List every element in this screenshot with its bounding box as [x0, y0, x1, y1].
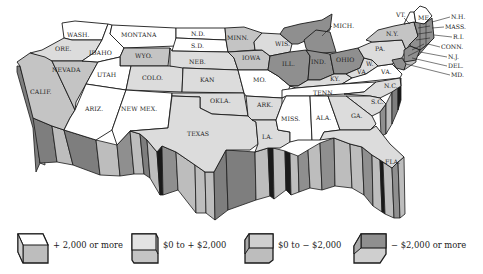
label-montana: MONTANA	[121, 31, 157, 38]
legend-label: $0 to + $2,000	[163, 240, 226, 250]
legend-label: $0 to − $2,000	[278, 240, 341, 250]
label-mo: MO.	[253, 76, 266, 83]
label-ky: KY.	[330, 75, 340, 82]
label-la: LA.	[262, 133, 273, 140]
cube-medium-icon	[243, 232, 275, 266]
label-calif: CALIF.	[30, 88, 52, 95]
label-ill: ILL.	[282, 60, 295, 67]
label-ga: GA.	[351, 112, 363, 119]
label-wva-va: VA.	[356, 68, 368, 75]
label-ind: IND.	[311, 58, 326, 65]
label-newmex: NEW MEX.	[121, 105, 157, 112]
label-ariz: ARIZ.	[84, 105, 103, 112]
legend-item-0-to-minus-2000: $0 to − $2,000	[243, 227, 341, 271]
legend-label: + 2,000 or more	[53, 240, 123, 250]
label-ark: ARK.	[256, 101, 273, 108]
legend-label: − $2,000 or more	[391, 240, 466, 250]
label-iowa: IOWA	[242, 54, 261, 61]
label-nc: N.C.	[384, 82, 398, 89]
label-ri: R.I.	[453, 33, 464, 40]
label-ore: ORE.	[55, 45, 72, 52]
label-neb: NEB.	[189, 58, 206, 65]
label-nd: N.D.	[191, 30, 205, 37]
label-va: VA.	[380, 68, 392, 75]
label-wyo: WYO.	[135, 52, 153, 59]
cube-dark-icon	[352, 232, 388, 266]
label-vt: VT.	[395, 11, 406, 18]
label-me: ME.	[418, 14, 431, 21]
label-ala: ALA.	[315, 114, 331, 121]
label-sc: S.C.	[371, 98, 384, 105]
label-tenn: TENN.	[313, 89, 335, 96]
label-fla: FLA.	[385, 158, 400, 165]
label-mass: MASS.	[445, 23, 466, 30]
label-pa: PA.	[375, 45, 385, 52]
state-ark[interactable]	[246, 96, 282, 120]
label-wva-w: W.	[366, 60, 373, 67]
label-conn: CONN.	[441, 43, 463, 50]
legend-item-0-to-plus-2000: $0 to + $2,000	[130, 227, 226, 271]
label-idaho: IDAHO	[89, 49, 112, 56]
label-mich: MICH.	[333, 22, 354, 29]
label-del: DEL.	[448, 62, 464, 69]
label-okla: OKLA.	[210, 97, 231, 104]
label-texas: TEXAS	[187, 130, 209, 137]
label-kan: KAN	[200, 76, 215, 83]
label-ohio: OHIO	[336, 56, 354, 63]
label-nevada: NEVADA	[52, 66, 81, 73]
label-colo: COLO.	[142, 74, 163, 81]
label-utah: UTAH	[97, 71, 117, 78]
label-wash: WASH.	[67, 31, 90, 38]
label-md: MD.	[451, 71, 464, 78]
label-minn: MINN.	[227, 34, 249, 41]
label-nj: N.J.	[448, 53, 459, 61]
label-nh: N.H.	[451, 13, 465, 20]
legend: + 2,000 or more $0 to + $2,000 $0 to − $…	[0, 227, 483, 271]
cube-light-icon	[130, 232, 160, 266]
label-miss: MISS.	[281, 115, 300, 122]
legend-item-plus-2000-more: + 2,000 or more	[16, 227, 123, 271]
label-wis: WIS.	[275, 40, 290, 47]
cube-white-icon	[16, 232, 50, 266]
legend-item-minus-2000-more: − $2,000 or more	[352, 227, 466, 271]
label-ny: N.Y.	[386, 30, 399, 37]
label-sd: S.D.	[191, 42, 204, 49]
